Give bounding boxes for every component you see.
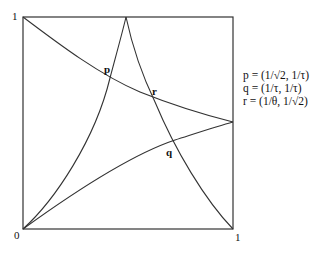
label-bottom-right: 1 [235, 231, 241, 243]
legend-q: q = (1/τ, 1/τ) [243, 82, 309, 95]
legend: p = (1/√2, 1/τ) q = (1/τ, 1/τ) r = (1/θ,… [243, 69, 309, 108]
legend-p: p = (1/√2, 1/τ) [243, 69, 309, 82]
unit-square [23, 17, 233, 229]
label-top-left: 1 [12, 10, 18, 22]
curve-top-cusp-to-bottom-right [126, 17, 233, 229]
point-label-r: r [152, 85, 157, 97]
point-label-p: p [104, 63, 110, 75]
legend-r: r = (1/θ, 1/√2) [243, 95, 309, 108]
curve-top-left-to-right-cusp [23, 17, 233, 122]
point-label-q: q [166, 146, 173, 158]
diagram-canvas: 1 0 1 p r q [0, 0, 320, 253]
curve-origin-to-top-cusp-left [23, 17, 126, 229]
curve-origin-to-right-cusp [23, 122, 233, 229]
label-origin: 0 [14, 229, 20, 241]
